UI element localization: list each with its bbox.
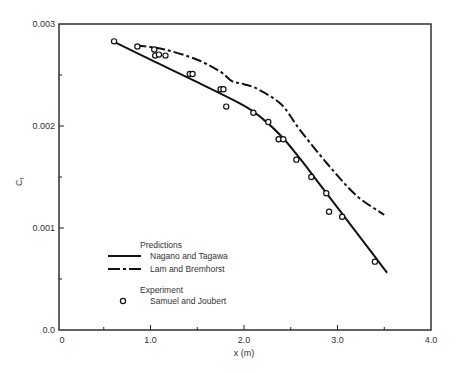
experiment-marker xyxy=(156,52,161,57)
x-tick-label: 2.0 xyxy=(238,335,251,345)
experiment-marker xyxy=(324,191,329,196)
experiment-marker xyxy=(224,104,229,109)
axis-ticks: 01.02.03.04.00.00.0010.0020.003 xyxy=(32,19,437,345)
x-tick-label: 4.0 xyxy=(425,335,438,345)
experiment-marker xyxy=(266,119,271,124)
legend: PredictionsNagano and TagawaLam and Brem… xyxy=(108,240,228,306)
experiment-marker xyxy=(294,157,299,162)
experiment-marker xyxy=(372,259,377,264)
legend-experiment-header: Experiment xyxy=(140,285,184,295)
y-tick-label: 0.002 xyxy=(32,121,55,131)
legend-predictions-header: Predictions xyxy=(140,240,182,250)
chart: 01.02.03.04.00.00.0010.0020.003 Predicti… xyxy=(0,0,456,373)
line-nagano-tagawa xyxy=(113,41,387,273)
legend-entry-lam: Lam and Bremhorst xyxy=(150,264,225,274)
experiment-marker xyxy=(190,71,195,76)
experiment-marker xyxy=(251,110,256,115)
experiment-marker xyxy=(163,53,168,58)
experiment-marker xyxy=(326,209,331,214)
experiment-marker xyxy=(340,214,345,219)
x-tick-label: 1.0 xyxy=(144,335,157,345)
y-tick-label: 0.003 xyxy=(32,19,55,29)
legend-entry-samuel: Samuel and Joubert xyxy=(150,296,227,306)
experiment-marker xyxy=(152,47,157,52)
y-axis-label: Cf xyxy=(14,178,25,187)
experiment-marker xyxy=(309,174,314,179)
plot-frame xyxy=(59,24,431,330)
experiment-marker xyxy=(135,44,140,49)
y-tick-label: 0.001 xyxy=(32,223,55,233)
plot-border xyxy=(59,24,431,330)
x-axis-label: x (m) xyxy=(234,348,255,358)
x-tick-label: 3.0 xyxy=(331,335,344,345)
legend-circle-marker-icon xyxy=(120,298,125,303)
experiment-marker xyxy=(281,137,286,142)
x-tick-label: 0 xyxy=(59,335,64,345)
legend-entry-nagano: Nagano and Tagawa xyxy=(150,251,228,261)
y-tick-label: 0.0 xyxy=(42,325,55,335)
series-layer xyxy=(111,39,387,273)
experiment-marker xyxy=(111,39,116,44)
experiment-marker xyxy=(221,87,226,92)
